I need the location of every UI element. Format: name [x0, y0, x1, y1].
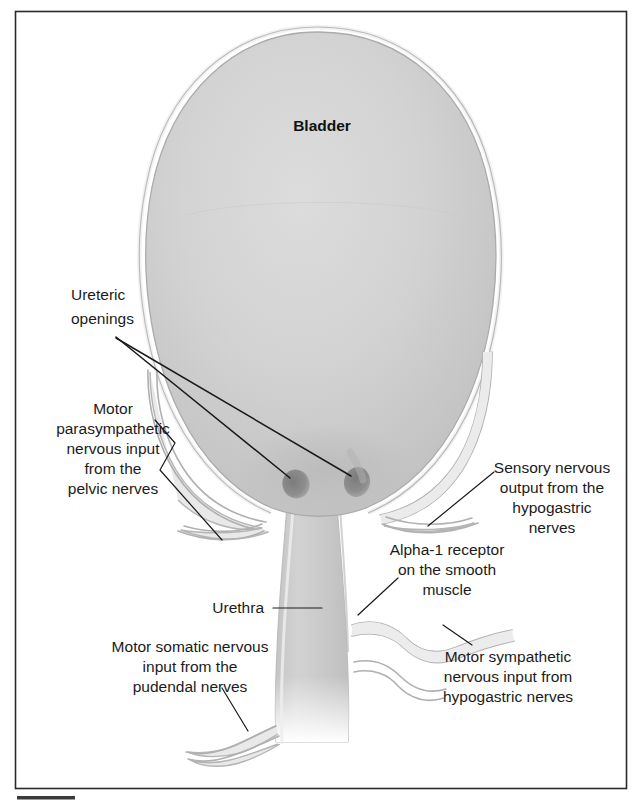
trigone-shading: [238, 424, 410, 516]
bladder-innervation-diagram: Bladder Ureteric openings Motor parasymp…: [0, 0, 642, 802]
svg-text:hypogastric: hypogastric: [512, 499, 592, 516]
leader-alpha1: [358, 578, 398, 615]
svg-text:nervous input: nervous input: [66, 440, 160, 457]
label-motor-somatic: Motor somatic nervous input from the pud…: [112, 638, 269, 695]
figure-root: Bladder Ureteric openings Motor parasymp…: [0, 0, 642, 802]
svg-text:hypogastric nerves: hypogastric nerves: [443, 688, 573, 705]
svg-text:nerves: nerves: [529, 519, 576, 536]
svg-text:Ureteric: Ureteric: [71, 286, 126, 303]
bladder-body: [139, 27, 501, 516]
label-sensory-hypogastric: Sensory nervous output from the hypogast…: [494, 459, 611, 536]
svg-text:Alpha-1 receptor: Alpha-1 receptor: [390, 541, 505, 558]
svg-text:muscle: muscle: [422, 581, 471, 598]
svg-text:parasympathetic: parasympathetic: [56, 420, 170, 437]
sympathetic-lower-branch-outer: [354, 661, 446, 691]
urethra-fade: [275, 505, 348, 742]
svg-text:Motor: Motor: [93, 400, 133, 417]
leader-sensory-hypogastric: [428, 472, 494, 526]
bottom-left-rule: [17, 796, 75, 800]
svg-text:openings: openings: [71, 310, 134, 327]
pudendal-nerve-bundle: [186, 726, 280, 766]
svg-text:pelvic nerves: pelvic nerves: [68, 480, 159, 497]
svg-text:Motor somatic nervous: Motor somatic nervous: [112, 638, 269, 655]
svg-text:pudendal nerves: pudendal nerves: [133, 678, 248, 695]
urethra-tube: [275, 505, 348, 744]
label-urethra: Urethra: [212, 599, 264, 616]
leader-sympathetic: [443, 625, 472, 645]
svg-text:Sensory nervous: Sensory nervous: [494, 459, 611, 476]
svg-text:on the smooth: on the smooth: [398, 561, 496, 578]
label-motor-sympathetic: Motor sympathetic nervous input from hyp…: [443, 648, 573, 705]
label-motor-parasympathetic: Motor parasympathetic nervous input from…: [56, 400, 170, 497]
label-bladder: Bladder: [293, 117, 351, 134]
svg-text:from the: from the: [85, 460, 142, 477]
label-alpha1-receptor: Alpha-1 receptor on the smooth muscle: [390, 541, 505, 598]
svg-text:output from the: output from the: [500, 479, 604, 496]
pelvic-nerve-branch: [181, 528, 268, 539]
svg-text:input from the: input from the: [143, 658, 238, 675]
svg-text:Motor sympathetic: Motor sympathetic: [445, 648, 572, 665]
svg-text:nervous input from: nervous input from: [444, 668, 572, 685]
label-ureteric-openings: Ureteric openings: [71, 286, 134, 327]
